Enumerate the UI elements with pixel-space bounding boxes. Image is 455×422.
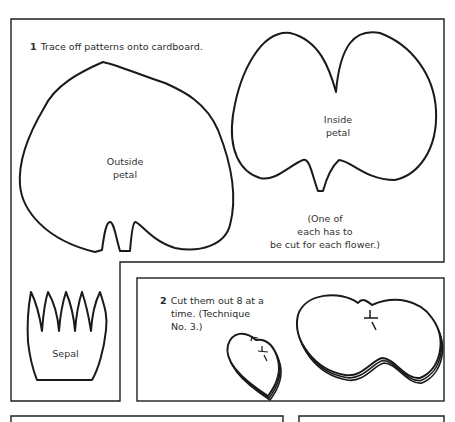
step2-number: 2: [160, 295, 167, 306]
step2-line: No. 3.): [160, 320, 264, 333]
step1-instruction: 1Trace off patterns onto cardboard.: [30, 40, 203, 53]
cutting-note: (One of each has to be cut for each flow…: [260, 212, 390, 251]
outside-petal-label: Outside petal: [100, 155, 150, 181]
step2-line: Cut them out 8 at a: [171, 295, 264, 306]
inside-petal-shape: [232, 32, 436, 191]
step1-number: 1: [30, 41, 37, 52]
outside-petal-label-line: Outside: [100, 155, 150, 168]
sepal-shape: [28, 292, 107, 380]
inside-petal-label: Inside petal: [318, 113, 358, 139]
step1-text: Trace off patterns onto cardboard.: [41, 41, 203, 52]
large-petal-stack: [297, 295, 442, 383]
step2-line: time. (Technique: [160, 307, 264, 320]
cutting-note-line: each has to: [260, 225, 390, 238]
step2-instruction: 2Cut them out 8 at a time. (Technique No…: [160, 294, 264, 333]
bottom-right-frame: [299, 416, 444, 422]
inside-petal-label-line: Inside: [318, 113, 358, 126]
cutting-note-line: be cut for each flower.): [260, 238, 390, 251]
bottom-left-frame: [11, 416, 283, 422]
small-petal-stack: [227, 334, 281, 400]
sepal-label: Sepal: [48, 347, 83, 360]
cutting-note-line: (One of: [260, 212, 390, 225]
outside-petal-label-line: petal: [100, 168, 150, 181]
inside-petal-label-line: petal: [318, 126, 358, 139]
